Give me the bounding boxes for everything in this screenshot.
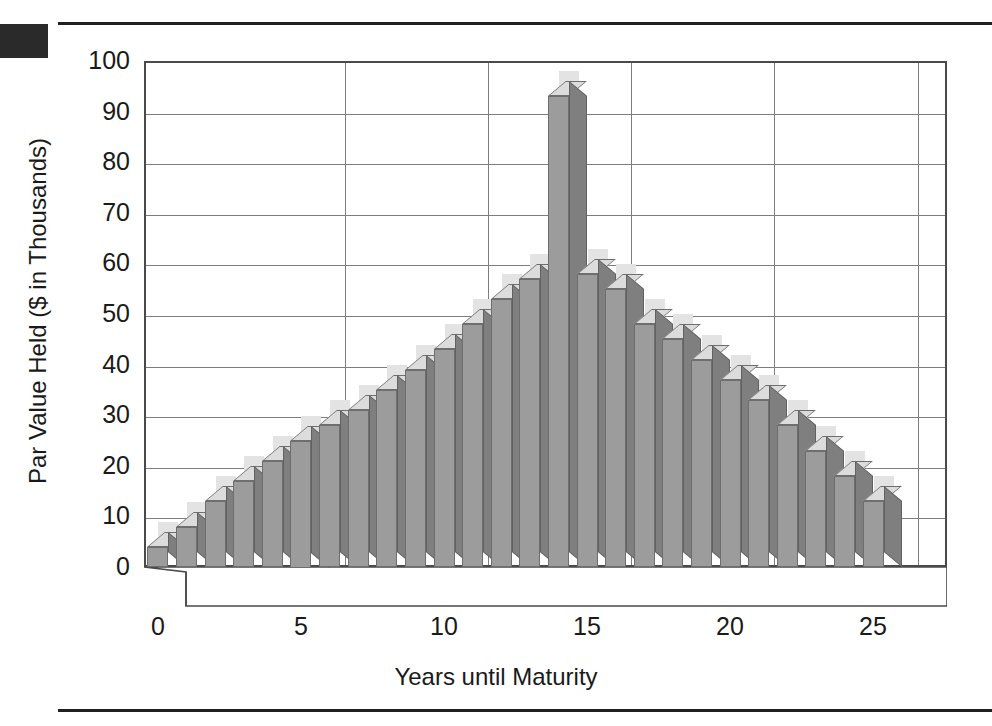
x-axis-tick-label: 10	[414, 612, 474, 640]
bar-front-face	[262, 461, 283, 567]
y-axis-tick-label: 90	[10, 99, 130, 124]
x-axis-tick-label: 25	[843, 612, 903, 640]
bar-front-face	[748, 400, 769, 567]
bar-side-face	[884, 486, 902, 567]
y-axis-tick-label: 10	[10, 503, 130, 528]
bar-front-face	[577, 274, 598, 567]
y-axis-tick-labels: 1009080706050403020100	[0, 61, 130, 567]
bar-front-face	[805, 451, 826, 567]
bar-front-face	[405, 370, 426, 567]
y-axis-tick-label: 30	[10, 402, 130, 427]
bar-front-face	[147, 547, 168, 567]
x-axis-tick-label: 5	[271, 612, 331, 640]
gridline-vertical	[918, 63, 919, 565]
bar-column[interactable]	[863, 61, 902, 614]
bar-front-face	[548, 96, 569, 567]
x-axis-title: Years until Maturity	[0, 663, 992, 691]
y-axis-tick-label: 50	[10, 301, 130, 326]
y-axis-tick-label: 60	[10, 250, 130, 275]
bar-front-face	[691, 360, 712, 567]
bar-front-face	[205, 501, 226, 567]
bar-front-face	[863, 501, 884, 567]
bars-layer	[144, 61, 947, 614]
bar-front-face	[834, 476, 855, 567]
top-horizontal-rule	[58, 22, 992, 25]
x-axis-tick-label: 20	[700, 612, 760, 640]
bar-front-face	[662, 339, 683, 567]
y-axis-tick-label: 0	[10, 554, 130, 579]
bar-front-face	[319, 425, 340, 567]
y-axis-tick-label: 20	[10, 453, 130, 478]
bar-front-face	[176, 527, 197, 567]
bar-front-face	[491, 299, 512, 567]
y-axis-tick-label: 40	[10, 352, 130, 377]
figure-container: Par Value Held ($ in Thousands) 10090807…	[0, 0, 992, 726]
y-axis-tick-label: 80	[10, 149, 130, 174]
bar-front-face	[376, 390, 397, 567]
bar-front-face	[434, 349, 455, 567]
bar-front-face	[233, 481, 254, 567]
bar-front-face	[462, 324, 483, 567]
x-axis-tick-labels: 0510152025	[0, 612, 992, 646]
bar-front-face	[720, 380, 741, 567]
bottom-horizontal-rule	[58, 709, 992, 712]
bar-front-face	[519, 279, 540, 567]
bar-front-face	[348, 410, 369, 567]
y-axis-tick-label: 70	[10, 200, 130, 225]
bar-front-face	[634, 324, 655, 567]
bar-front-face	[605, 289, 626, 567]
x-axis-tick-label: 15	[557, 612, 617, 640]
y-axis-tick-label: 100	[10, 48, 130, 73]
bar-front-face	[777, 425, 798, 567]
bar-front-face	[290, 441, 311, 568]
x-axis-tick-label: 0	[128, 612, 188, 640]
